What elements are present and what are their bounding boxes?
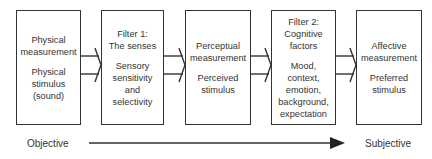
double-arrow-icon xyxy=(81,48,101,82)
double-arrow-icon xyxy=(164,48,185,82)
double-arrow-icon xyxy=(336,48,356,82)
connector-arrows xyxy=(0,0,432,159)
objective-subjective-arrow-icon xyxy=(89,137,345,149)
objective-label: Objective xyxy=(27,138,69,149)
double-arrow-icon xyxy=(251,48,271,82)
subjective-label: Subjective xyxy=(365,138,411,149)
